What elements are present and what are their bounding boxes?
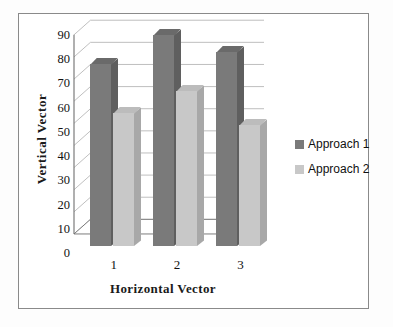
bar-approach-1-cat-1[interactable] <box>90 64 111 246</box>
y-axis-tick-label: 70 <box>36 76 70 91</box>
bar-approach-2-cat-1[interactable] <box>113 113 134 246</box>
bar-approach-1-cat-3[interactable] <box>216 52 237 246</box>
legend-label-approach-2: Approach 2 <box>308 162 369 176</box>
bar-front-face <box>239 125 260 246</box>
bar-front-face <box>153 35 174 246</box>
bar-approach-2-cat-2[interactable] <box>176 91 197 246</box>
x-axis-title: Horizontal Vector <box>38 281 288 297</box>
y-axis-tick-label: 30 <box>36 173 70 188</box>
y-axis-tick-label: 40 <box>36 149 70 164</box>
plot-area <box>74 35 264 253</box>
y-axis-tick-label: 90 <box>36 28 70 43</box>
chart-screenshot: Vertical Vector Horizontal Vector 010203… <box>0 0 393 327</box>
x-axis-tick-labels: 123 <box>74 257 282 277</box>
bar-approach-2-cat-3[interactable] <box>239 125 260 246</box>
legend-swatch-approach-1 <box>295 140 304 149</box>
y-axis-tick-label: 50 <box>36 124 70 139</box>
legend-entry-approach-1[interactable]: Approach 1 <box>295 137 391 151</box>
bar-side-face <box>197 85 204 245</box>
x-axis-tick-label: 1 <box>94 257 134 273</box>
bar-front-face <box>90 64 111 246</box>
x-axis-tick-label: 2 <box>157 257 197 273</box>
x-axis-tick-label: 3 <box>220 257 260 273</box>
y-axis-tick-label: 0 <box>36 246 70 261</box>
chart-legend: Approach 1 Approach 2 <box>295 137 391 187</box>
y-axis-tick-label: 20 <box>36 197 70 212</box>
y-axis-tick-label: 80 <box>36 52 70 67</box>
bar-front-face <box>176 91 197 246</box>
y-axis-tick-label: 10 <box>36 221 70 236</box>
legend-entry-approach-2[interactable]: Approach 2 <box>295 162 391 176</box>
bar-side-face <box>134 107 141 246</box>
y-axis-tick-labels: 0102030405060708090 <box>36 35 70 253</box>
bar-side-face <box>260 119 267 246</box>
bar-group-container <box>74 35 264 253</box>
gridline <box>74 20 90 35</box>
bar-front-face <box>216 52 237 246</box>
bar-front-face <box>113 113 134 246</box>
legend-label-approach-1: Approach 1 <box>308 137 369 151</box>
legend-swatch-approach-2 <box>295 165 304 174</box>
bar-chart: Vertical Vector Horizontal Vector 010203… <box>18 13 369 309</box>
bar-approach-1-cat-2[interactable] <box>153 35 174 246</box>
y-axis-tick-label: 60 <box>36 100 70 115</box>
